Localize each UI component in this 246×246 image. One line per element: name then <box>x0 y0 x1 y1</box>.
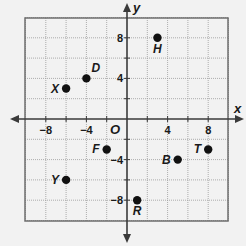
coordinate-grid-svg: xy −8−44884−4−8O HDXFYBTR <box>0 0 246 246</box>
point-label: H <box>153 42 162 56</box>
point-marker-icon <box>174 155 182 163</box>
point-r: R <box>133 196 142 218</box>
x-axis-left-arrow-icon <box>10 115 19 123</box>
point-d: D <box>82 61 100 82</box>
point-t: T <box>194 142 213 156</box>
point-marker-icon <box>62 176 70 184</box>
point-label: R <box>133 204 142 218</box>
x-axis-right-arrow-icon <box>235 115 244 123</box>
point-label: Y <box>51 173 60 187</box>
x-axis-label: x <box>233 101 242 116</box>
point-label: T <box>194 142 203 156</box>
point-label: F <box>92 142 100 156</box>
origin-label: O <box>110 122 120 137</box>
point-h: H <box>153 34 162 56</box>
point-marker-icon <box>133 196 141 204</box>
y-tick-label: −4 <box>110 154 123 166</box>
x-tick-label: 8 <box>205 124 211 136</box>
point-f: F <box>92 142 111 156</box>
y-tick-label: 4 <box>117 72 124 84</box>
y-tick-label: 8 <box>117 32 123 44</box>
x-tick-label: 4 <box>165 124 172 136</box>
point-marker-icon <box>153 34 161 42</box>
point-x: X <box>50 82 70 96</box>
axes: xy <box>10 0 244 243</box>
point-y: Y <box>51 173 70 187</box>
point-b: B <box>162 153 182 167</box>
coordinate-plane: xy −8−44884−4−8O HDXFYBTR <box>0 0 246 246</box>
point-marker-icon <box>82 74 90 82</box>
point-marker-icon <box>103 145 111 153</box>
x-tick-label: −4 <box>80 124 93 136</box>
point-label: B <box>162 153 171 167</box>
point-marker-icon <box>62 84 70 92</box>
y-axis-label: y <box>132 0 141 15</box>
point-label: D <box>91 61 100 75</box>
x-tick-label: −8 <box>40 124 53 136</box>
y-axis-down-arrow-icon <box>123 234 131 243</box>
y-axis-up-arrow-icon <box>123 3 131 12</box>
point-label: X <box>50 82 60 96</box>
y-tick-label: −8 <box>110 194 123 206</box>
point-marker-icon <box>204 145 212 153</box>
